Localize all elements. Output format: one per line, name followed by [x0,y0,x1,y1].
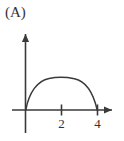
figure-container: (A) 2 4 [0,0,124,141]
tick-label-4: 4 [94,116,101,131]
x-axis-arrow-icon [104,106,112,113]
tick-label-2: 2 [58,116,65,131]
tick-labels-group: 2 4 [58,116,101,131]
plot-area: 2 4 [0,0,124,141]
y-axis-arrow-icon [22,34,29,42]
